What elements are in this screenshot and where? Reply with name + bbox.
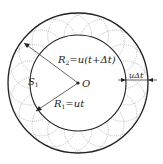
thickness-arrow-right — [148, 78, 153, 82]
outer-radius-label: R2=u(t+Δt) — [57, 54, 116, 66]
center-label: O — [82, 78, 90, 89]
inner-radius-label: R1=ut — [53, 98, 85, 110]
outer-radius-arrowhead — [24, 43, 30, 48]
ring-diagram: O S1 R2=u(t+Δt) R1=ut uΔt — [0, 0, 163, 164]
region-label: S1 — [28, 76, 39, 88]
center-point — [76, 81, 79, 84]
thickness-label: uΔt — [129, 71, 144, 80]
